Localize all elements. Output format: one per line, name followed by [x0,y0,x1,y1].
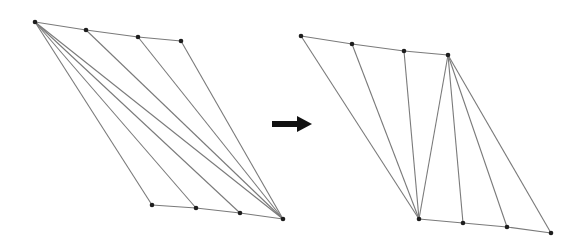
before-diagonal-edge-A-F [35,22,196,208]
after-vertices [299,34,554,236]
before-vertex-D [179,39,184,44]
before-boundary-edge-D-H [181,41,283,219]
after-boundary-edge-Q2-Q3 [463,223,507,227]
after-diagonal-edge-P3-Q1 [404,51,419,219]
before-boundary-edge-C-D [138,37,181,41]
before-diagonal-edge-A-G [35,22,240,213]
before-vertex-G [238,211,243,216]
before-vertex-F [194,206,199,211]
diagram-svg [0,0,582,248]
triangulation-before [33,20,286,222]
after-boundary-edge-P1-P2 [301,36,352,44]
after-vertex-P4 [446,53,451,58]
before-vertex-B [84,28,89,33]
before-boundary-edge-A-E [35,22,152,205]
after-vertex-P3 [402,49,407,54]
before-boundary-edge-B-C [86,30,138,37]
before-diagonal-edge-A-H [35,22,283,219]
after-diagonal-edge-P4-Q1 [419,55,448,219]
after-vertex-Q4 [549,231,554,236]
after-boundary-edge-P3-P4 [404,51,448,55]
before-diagonal-edge-C-H [138,37,283,219]
after-boundary-edge-Q1-Q2 [419,219,463,223]
after-boundary-edge-Q3-Q4 [507,227,551,233]
after-vertex-P1 [299,34,304,39]
after-vertex-Q1 [417,217,422,222]
before-vertex-C [136,35,141,40]
after-vertex-P2 [350,42,355,47]
after-vertex-Q3 [505,225,510,230]
diagram-canvas [0,0,582,248]
before-vertex-H [281,217,286,222]
before-boundary-edge-F-G [196,208,240,213]
after-boundary-edge-P2-P3 [352,44,404,51]
before-vertex-A [33,20,38,25]
right-arrow-icon [272,116,312,132]
triangulation-after [299,34,554,236]
after-vertex-Q2 [461,221,466,226]
after-edges [301,36,551,233]
before-diagonal-edge-B-H [86,30,283,219]
before-vertex-E [150,203,155,208]
after-diagonal-edge-P4-Q2 [448,55,463,223]
transform-arrow-icon [272,116,312,132]
before-boundary-edge-E-F [152,205,196,208]
before-edges [35,22,283,219]
